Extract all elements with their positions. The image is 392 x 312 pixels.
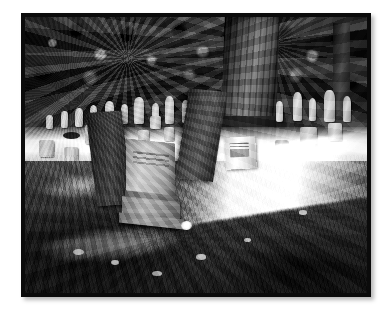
background-marker	[343, 96, 351, 122]
inscribed-marker-lettering	[230, 142, 249, 157]
ground-debris	[196, 254, 206, 260]
background-marker	[46, 115, 54, 129]
background-block-marker	[150, 116, 162, 128]
ground-object	[63, 132, 80, 139]
background-block-marker	[164, 127, 174, 140]
ground-debris	[111, 260, 119, 265]
background-marker	[165, 96, 174, 124]
foreground-monument	[122, 141, 180, 227]
cemetery-photograph: Cemetery with leaning gravestones beneat…	[25, 17, 367, 293]
background-marker	[293, 92, 302, 121]
background-marker	[75, 108, 83, 127]
tree-shadow	[203, 227, 367, 293]
background-marker	[61, 111, 68, 128]
background-marker	[134, 97, 144, 124]
photo-frame: Cemetery with leaning gravestones beneat…	[21, 13, 371, 297]
background-marker	[309, 98, 317, 121]
page-root: Cemetery with leaning gravestones beneat…	[0, 0, 392, 312]
ground-debris	[73, 249, 84, 255]
background-marker	[324, 90, 334, 121]
monument-inscription	[133, 151, 169, 180]
background-marker	[276, 101, 283, 121]
